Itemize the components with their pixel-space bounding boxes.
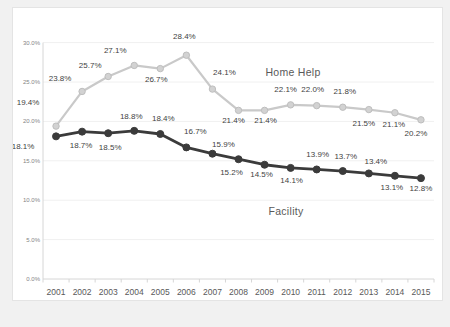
x-tick-label: 2009	[255, 287, 274, 297]
data-label: 21.4%	[222, 116, 245, 125]
data-point	[105, 130, 112, 137]
line-chart: 0.0%5.0%10.0%15.0%20.0%25.0%30.0%2001200…	[13, 8, 444, 302]
data-label: 21.1%	[383, 120, 406, 129]
data-point	[157, 65, 163, 71]
x-tick-label: 2012	[333, 287, 352, 297]
data-label: 15.2%	[220, 168, 243, 177]
data-label: 14.5%	[250, 170, 273, 179]
x-tick-label: 2015	[412, 287, 431, 297]
data-point	[313, 166, 320, 173]
x-tick-label: 2002	[73, 287, 92, 297]
x-tick-label: 2014	[385, 287, 404, 297]
data-label: 18.5%	[99, 143, 122, 152]
data-point	[235, 107, 241, 113]
y-tick-label: 10.0%	[23, 197, 41, 203]
data-point	[235, 156, 242, 163]
data-label: 20.2%	[405, 129, 428, 138]
data-label: 21.8%	[333, 87, 356, 96]
data-point	[391, 172, 398, 179]
data-label: 19.4%	[17, 98, 40, 107]
data-label: 28.4%	[173, 32, 196, 41]
data-label: 23.8%	[49, 74, 72, 83]
data-point	[157, 131, 164, 138]
data-label: 14.1%	[280, 176, 303, 185]
data-label: 13.4%	[364, 157, 387, 166]
series-label-home-help: Home Help	[265, 66, 320, 78]
x-tick-label: 2010	[281, 287, 300, 297]
data-point	[365, 170, 372, 177]
data-point	[183, 52, 189, 58]
data-point	[53, 133, 60, 140]
data-label: 21.4%	[254, 116, 277, 125]
data-point	[105, 73, 111, 79]
y-tick-label: 30.0%	[23, 40, 41, 46]
x-tick-label: 2013	[359, 287, 378, 297]
x-tick-label: 2007	[203, 287, 222, 297]
data-point	[209, 86, 215, 92]
data-point	[287, 164, 294, 171]
data-point	[417, 175, 424, 182]
x-tick-label: 2003	[99, 287, 118, 297]
chart-card: 0.0%5.0%10.0%15.0%20.0%25.0%30.0%2001200…	[12, 7, 443, 301]
x-tick-label: 2008	[229, 287, 248, 297]
data-point	[79, 128, 86, 135]
data-label: 13.1%	[381, 183, 404, 192]
data-label: 24.1%	[213, 68, 236, 77]
data-point	[339, 168, 346, 175]
y-tick-label: 0.0%	[26, 276, 40, 282]
y-tick-label: 25.0%	[23, 79, 41, 85]
data-label: 25.7%	[79, 61, 102, 70]
data-label: 13.7%	[334, 152, 357, 161]
data-label: 18.4%	[152, 114, 175, 123]
data-label: 12.8%	[410, 184, 433, 193]
x-tick-label: 2006	[177, 287, 196, 297]
data-point	[418, 117, 424, 123]
data-label: 27.1%	[104, 46, 127, 55]
data-point	[131, 127, 138, 134]
data-point	[287, 102, 293, 108]
y-tick-label: 5.0%	[26, 237, 40, 243]
data-label: 22.1%	[274, 85, 297, 94]
data-point	[79, 88, 85, 94]
data-point	[209, 150, 216, 157]
y-tick-label: 20.0%	[23, 118, 41, 124]
data-point	[53, 123, 59, 129]
data-label: 18.1%	[13, 142, 34, 151]
data-label: 16.7%	[184, 127, 207, 136]
series-label-facility: Facility	[268, 205, 303, 217]
x-tick-label: 2011	[308, 287, 327, 297]
data-label: 18.7%	[70, 141, 93, 150]
data-point	[131, 62, 137, 68]
y-tick-label: 15.0%	[23, 158, 41, 164]
data-label: 13.9%	[306, 150, 329, 159]
data-point	[366, 106, 372, 112]
data-point	[314, 102, 320, 108]
data-label: 26.7%	[145, 75, 168, 84]
data-point	[261, 161, 268, 168]
data-label: 22.0%	[301, 85, 324, 94]
data-label: 21.5%	[352, 119, 375, 128]
page-background: 0.0%5.0%10.0%15.0%20.0%25.0%30.0%2001200…	[0, 0, 450, 327]
x-tick-label: 2004	[125, 287, 144, 297]
data-point	[392, 110, 398, 116]
data-point	[261, 107, 267, 113]
data-point	[183, 144, 190, 151]
data-point	[340, 104, 346, 110]
x-tick-label: 2005	[151, 287, 170, 297]
data-label: 15.9%	[212, 140, 235, 149]
x-tick-label: 2001	[47, 287, 66, 297]
data-label: 18.8%	[120, 112, 143, 121]
